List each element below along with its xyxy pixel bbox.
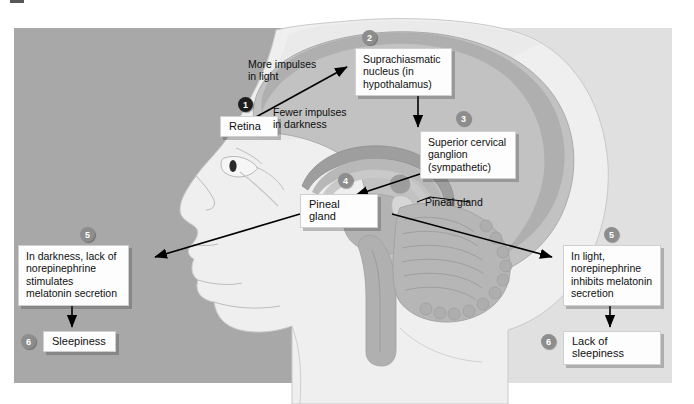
- more-impulses-label: More impulses in light: [248, 58, 316, 83]
- badge-5-left: 5: [80, 227, 95, 242]
- badge-3: 3: [456, 111, 471, 126]
- pineal-gland-box[interactable]: Pineal gland: [300, 194, 378, 228]
- badge-5-right: 5: [604, 227, 619, 242]
- badge-4: 4: [338, 173, 353, 188]
- superior-cervical-ganglion-box[interactable]: Superior cervical ganglion (sympathetic): [420, 131, 516, 179]
- light-effect-box[interactable]: In light, norepinephrine inhibits melato…: [563, 245, 661, 306]
- sleepiness-box[interactable]: Sleepiness: [43, 331, 116, 352]
- darkness-effect-box[interactable]: In darkness, lack of norepinephrine stim…: [18, 245, 129, 306]
- badge-6-right: 6: [541, 334, 556, 349]
- badge-1: 1: [238, 97, 253, 112]
- badge-2: 2: [362, 30, 377, 45]
- fewer-impulses-label: Fewer impulses in darkness: [273, 106, 347, 131]
- pineal-gland-leader-label: Pineal gland: [425, 196, 483, 208]
- lack-of-sleepiness-box[interactable]: Lack of sleepiness: [563, 331, 661, 365]
- figure-canvas: Retina Suprachiasmatic nucleus (in hypot…: [0, 0, 694, 404]
- badge-6-left: 6: [21, 334, 36, 349]
- suprachiasmatic-nucleus-box[interactable]: Suprachiasmatic nucleus (in hypothalamus…: [355, 48, 452, 96]
- retina-box[interactable]: Retina: [220, 116, 278, 137]
